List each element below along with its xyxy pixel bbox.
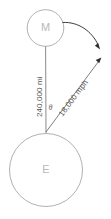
orbit-direction-arrowhead-icon — [95, 43, 100, 50]
distance-label: 240,000 mi — [35, 76, 44, 117]
angle-theta-label: θ — [49, 103, 53, 112]
earth-label: E — [42, 163, 49, 175]
moon-label: M — [41, 21, 50, 33]
orbit-diagram-svg: M E θ 240,000 mi 18,000 mph — [0, 0, 111, 219]
orbit-diagram-canvas: M E θ 240,000 mi 18,000 mph — [0, 0, 111, 219]
orbit-direction-curve — [63, 22, 99, 45]
velocity-label: 18,000 mph — [57, 78, 90, 118]
velocity-arrowhead-icon — [96, 57, 102, 63]
